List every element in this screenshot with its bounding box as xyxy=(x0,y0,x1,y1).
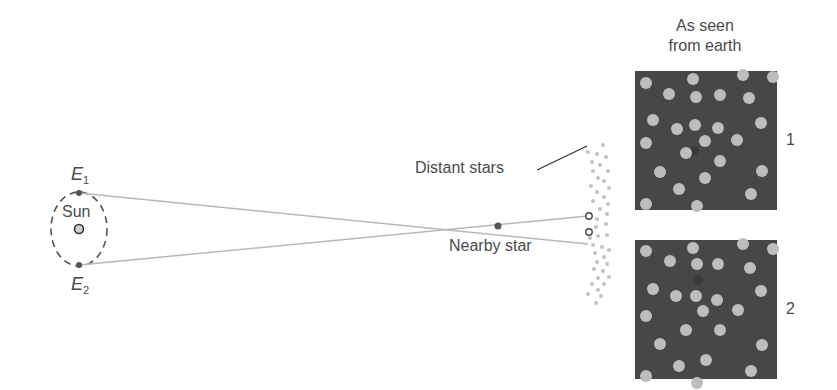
e2-letter: E xyxy=(71,274,83,294)
sun-icon xyxy=(75,225,84,234)
e1-letter: E xyxy=(71,164,83,184)
as-seen-line-2: from earth xyxy=(635,36,775,56)
panel-1-number: 1 xyxy=(786,131,795,149)
e1-subscript: 1 xyxy=(83,174,89,186)
label-sun: Sun xyxy=(62,203,90,221)
label-as-seen-from-earth: As seen from earth xyxy=(635,16,775,56)
distant-stars-leader xyxy=(537,146,587,170)
label-nearby-star: Nearby star xyxy=(449,237,532,255)
e2-subscript: 2 xyxy=(83,284,89,296)
panel-2-number: 2 xyxy=(786,300,795,318)
sky-view-panel-1 xyxy=(635,71,777,210)
sky-view-panel-2 xyxy=(635,240,777,379)
label-distant-stars: Distant stars xyxy=(415,159,504,177)
projected-position-2 xyxy=(586,229,592,235)
label-e2: E2 xyxy=(71,274,89,296)
projected-position-1 xyxy=(586,213,592,219)
earth-position-1 xyxy=(76,190,82,196)
distant-stars-cloud xyxy=(586,143,611,305)
as-seen-line-1: As seen xyxy=(635,16,775,36)
label-e1: E1 xyxy=(71,164,89,186)
earth-position-2 xyxy=(76,262,82,268)
nearby-star-icon xyxy=(495,223,502,230)
